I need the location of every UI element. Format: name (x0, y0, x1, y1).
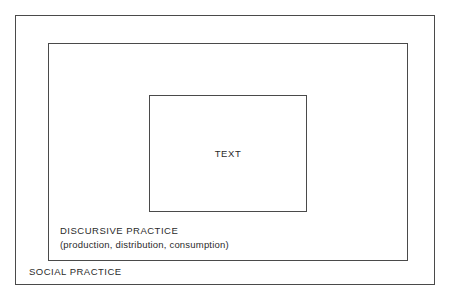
discursive-practice-sublabel: (production, distribution, consumption) (60, 238, 229, 252)
text-box: TEXT (149, 95, 307, 212)
text-box-label: TEXT (150, 148, 306, 159)
social-practice-box: TEXT DISCURSIVE PRACTICE (production, di… (15, 15, 435, 285)
discursive-practice-label: DISCURSIVE PRACTICE (60, 224, 229, 238)
discursive-practice-box: TEXT DISCURSIVE PRACTICE (production, di… (48, 43, 408, 261)
discursive-practice-caption: DISCURSIVE PRACTICE (production, distrib… (60, 224, 229, 252)
discourse-model-diagram: TEXT DISCURSIVE PRACTICE (production, di… (0, 0, 451, 302)
social-practice-label: SOCIAL PRACTICE (29, 265, 122, 279)
